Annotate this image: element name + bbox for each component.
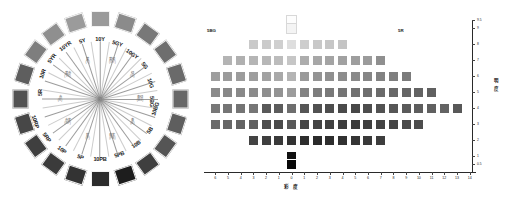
color-swatch-cell	[337, 71, 348, 82]
hue-swatch-5p	[64, 165, 87, 186]
color-swatch-cell	[210, 119, 221, 130]
color-swatch-cell	[286, 103, 297, 114]
color-swatch-cell	[299, 119, 310, 130]
x-tick	[279, 172, 280, 175]
color-swatch-cell	[426, 87, 437, 98]
color-swatch-cell	[222, 103, 233, 114]
x-tick	[470, 172, 471, 175]
y-axis-title: 明 度	[492, 78, 498, 92]
color-swatch-cell	[248, 71, 259, 82]
color-swatch-cell	[273, 135, 284, 146]
color-swatch-cell	[388, 103, 399, 114]
hue-swatch-10bg	[166, 112, 187, 135]
color-swatch-cell	[286, 119, 297, 130]
color-swatch-cell	[235, 87, 246, 98]
hue-swatch-5pb	[113, 165, 136, 186]
color-swatch-cell	[350, 87, 361, 98]
color-swatch-cell	[350, 71, 361, 82]
x-tick	[381, 172, 382, 175]
x-tick	[228, 172, 229, 175]
hue-label-5yr: 5YR	[46, 52, 57, 64]
color-swatch-cell	[362, 55, 373, 66]
hue-swatch-10y	[91, 11, 110, 27]
color-swatch-cell	[286, 23, 297, 34]
color-swatch-cell	[324, 103, 335, 114]
hue-name-bg: 青緑(BG)	[137, 96, 144, 103]
color-swatch-cell	[337, 103, 348, 114]
x-axis-line	[204, 172, 476, 173]
color-swatch-cell	[337, 119, 348, 130]
x-tick-label: 2	[316, 176, 318, 180]
color-swatch-cell	[299, 135, 310, 146]
color-swatch-cell	[222, 71, 233, 82]
hue-name-gy: 黄緑(GY)	[109, 58, 116, 65]
y-tick-label: 3	[477, 122, 479, 126]
hue-label-5pb: 5PB	[113, 150, 125, 159]
color-swatch-cell	[210, 103, 221, 114]
hue-swatch-10b	[135, 152, 160, 176]
hue-swatch-10gy	[135, 22, 160, 46]
y-tick-label: 7	[477, 58, 479, 62]
color-swatch-cell	[235, 55, 246, 66]
hue-ray	[100, 99, 101, 157]
color-swatch-cell	[426, 103, 437, 114]
y-tick-label: 9.5	[477, 18, 482, 22]
x-tick-label: 7	[380, 176, 382, 180]
color-swatch-cell	[413, 103, 424, 114]
color-swatch-cell	[210, 87, 221, 98]
y-tick	[472, 60, 475, 61]
color-swatch-cell	[261, 71, 272, 82]
x-tick-label: 12	[442, 176, 446, 180]
color-swatch-cell	[299, 55, 310, 66]
x-tick-label: 4	[342, 176, 344, 180]
color-swatch-cell	[299, 87, 310, 98]
x-tick-label: 1	[278, 176, 280, 180]
hue-ray	[42, 99, 100, 100]
color-swatch-cell	[261, 87, 272, 98]
color-swatch-cell	[375, 135, 386, 146]
hue-swatch-10pb	[91, 171, 110, 187]
color-swatch-cell	[312, 135, 323, 146]
y-tick	[472, 164, 475, 165]
x-tick-label: 1	[303, 176, 305, 180]
hue-swatch-5bg	[172, 90, 188, 109]
color-swatch-cell	[235, 103, 246, 114]
munsell-figure: 5R10R5YR10YR5Y10Y5GY10GY5G10G5BG10BG5B10…	[0, 0, 508, 197]
color-swatch-cell	[248, 39, 259, 50]
color-swatch-cell	[273, 119, 284, 130]
hue-ray	[100, 99, 147, 133]
color-swatch-cell	[286, 159, 297, 170]
x-tick-label: 13	[455, 176, 459, 180]
y-tick	[472, 28, 475, 29]
color-swatch-cell	[362, 135, 373, 146]
y-tick-label: 0.5	[477, 162, 482, 166]
x-tick-label: 5	[354, 176, 356, 180]
x-tick	[432, 172, 433, 175]
color-swatch-cell	[273, 55, 284, 66]
color-swatch-cell	[222, 87, 233, 98]
color-swatch-cell	[388, 87, 399, 98]
x-tick	[330, 172, 331, 175]
hue-swatch-10g	[166, 63, 187, 86]
color-swatch-cell	[286, 55, 297, 66]
hue-label-5p: 5P	[76, 153, 84, 161]
color-swatch-cell	[324, 39, 335, 50]
hue-swatch-5r	[12, 90, 28, 109]
hue-swatch-10yr	[41, 22, 66, 46]
color-swatch-cell	[248, 119, 259, 130]
color-swatch-cell	[222, 119, 233, 130]
color-swatch-cell	[401, 119, 412, 130]
color-swatch-cell	[401, 103, 412, 114]
x-tick	[253, 172, 254, 175]
color-swatch-cell	[261, 135, 272, 146]
color-swatch-cell	[324, 119, 335, 130]
x-tick	[266, 172, 267, 175]
color-swatch-cell	[413, 87, 424, 98]
color-swatch-cell	[273, 71, 284, 82]
color-swatch-cell	[401, 71, 412, 82]
color-swatch-cell	[362, 87, 373, 98]
x-tick-label: 9	[405, 176, 407, 180]
color-swatch-cell	[337, 87, 348, 98]
color-swatch-cell	[324, 87, 335, 98]
x-tick-label: 6	[367, 176, 369, 180]
